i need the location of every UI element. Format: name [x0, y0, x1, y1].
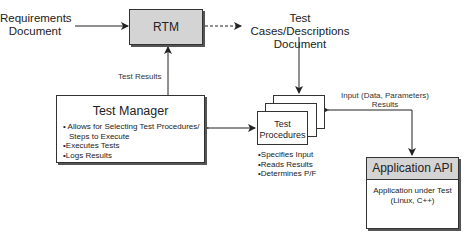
test-cases-line2: Document [240, 38, 360, 51]
rtm-label: RTM [130, 20, 202, 34]
test-procedures-list: Specifies Input Reads Results Determines… [258, 150, 316, 179]
application-api-body: Application under Test (Linux, C++) [367, 186, 458, 206]
test-procedures-item: Reads Results [258, 160, 316, 170]
test-results-label: Test Results [118, 72, 162, 81]
application-api-box: Application API Application under Test (… [366, 157, 459, 229]
test-procedures-item: Specifies Input [258, 150, 316, 160]
application-api-title: Application API [367, 158, 458, 180]
test-cases-document-label: Test Cases/Descriptions Document [240, 12, 360, 51]
test-manager-box: Test Manager Allows for Selecting Test P… [56, 95, 205, 163]
requirements-line1: Requirements [0, 12, 70, 25]
requirements-line2: Document [0, 25, 70, 38]
api-link-label: Input (Data, Parameters) Results [330, 91, 440, 109]
requirements-document-label: Requirements Document [0, 12, 70, 38]
test-manager-list: Allows for Selecting Test Procedures/ St… [63, 122, 200, 160]
test-manager-item: Allows for Selecting Test Procedures/ St… [63, 122, 200, 141]
test-procedures-item: Determines P/F [258, 169, 316, 179]
test-manager-title: Test Manager [57, 104, 204, 118]
test-manager-item: Logs Results [63, 151, 200, 161]
test-procedures-label: Test Procedures [258, 119, 307, 141]
test-manager-item: Executes Tests [63, 141, 200, 151]
test-procedures-box: Test Procedures [257, 111, 308, 145]
rtm-box: RTM [129, 9, 203, 45]
arrow-procedures-api-bidirectional [328, 110, 412, 155]
test-cases-line1: Test Cases/Descriptions [240, 12, 360, 38]
